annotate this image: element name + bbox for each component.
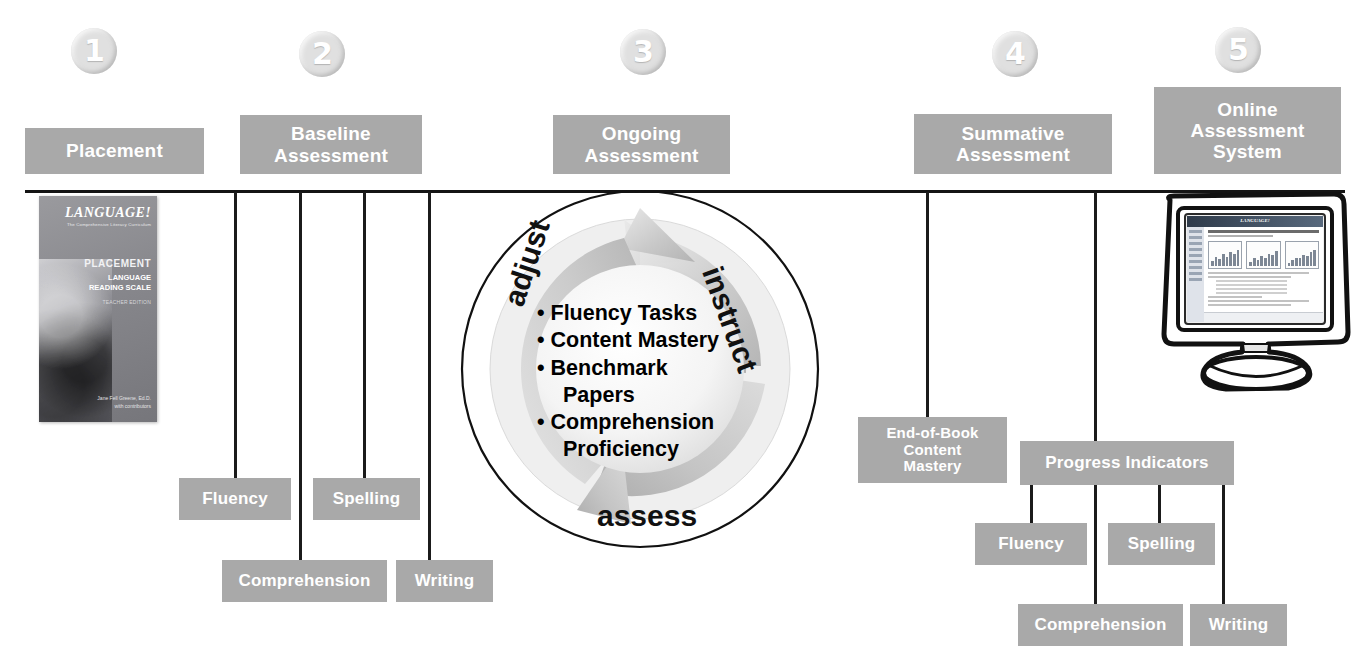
summative-box-end-of-book-content-mastery[interactable]: End-of-Book Content Mastery <box>858 417 1007 483</box>
summative-box-line1: End-of-Book <box>886 425 978 442</box>
cycle-item-3-label: Papers <box>563 383 635 407</box>
screen-page-subtitle <box>1208 235 1273 237</box>
step-number-2: 2 <box>312 39 332 69</box>
progress-child-spelling[interactable]: Spelling <box>1108 523 1215 565</box>
baseline-child-comprehension[interactable]: Comprehension <box>222 560 387 602</box>
online-assessment-monitor: LANGUAGE! <box>1148 192 1364 408</box>
diagram-canvas: 1 2 3 4 5 Placement Baseline Assessment … <box>0 0 1369 672</box>
screen-page-chart <box>1246 241 1280 269</box>
screen-page-text-line <box>1208 276 1291 278</box>
screen-page-bullet <box>1216 284 1287 286</box>
baseline-child-spelling-label: Spelling <box>333 489 401 508</box>
baseline-child-writing[interactable]: Writing <box>396 560 493 602</box>
header-box-ongoing-assessment[interactable]: Ongoing Assessment <box>553 115 730 174</box>
cycle-item-0: • Fluency Tasks <box>537 300 719 327</box>
book-series-line1: LANGUAGE <box>89 273 151 283</box>
cycle-item-2-label: Benchmark <box>551 356 668 380</box>
progress-indicators-box[interactable]: Progress Indicators <box>1020 441 1234 485</box>
connector-progress-comprehension <box>1094 485 1097 604</box>
step-number-5: 5 <box>1228 35 1248 65</box>
sidebar-item <box>1189 242 1202 245</box>
connector-baseline-spelling <box>363 192 366 478</box>
screen-page-bullet <box>1216 288 1287 290</box>
connector-online-progress-indicators <box>1094 192 1097 441</box>
header-box-placement[interactable]: Placement <box>25 128 204 174</box>
step-circle-3: 3 <box>620 29 666 75</box>
book-tagline: The Comprehensive Literacy Curriculum <box>67 222 151 227</box>
cycle-item-5: Proficiency <box>537 436 719 463</box>
header-label-ongoing-line2: Assessment <box>585 145 699 166</box>
screen-page-text-line <box>1208 304 1291 306</box>
header-label-ongoing-line1: Ongoing <box>602 123 682 144</box>
screen-page-text-line <box>1208 296 1262 298</box>
header-label-baseline-line2: Assessment <box>274 145 388 166</box>
header-label-summative-line2: Assessment <box>956 144 1070 165</box>
progress-child-writing[interactable]: Writing <box>1190 604 1287 646</box>
header-label-online-line3: System <box>1213 141 1282 162</box>
connector-baseline-fluency <box>234 192 237 478</box>
progress-child-spelling-label: Spelling <box>1128 534 1196 553</box>
chart-bars <box>1211 249 1239 266</box>
screen-page-title <box>1208 230 1319 233</box>
header-label-baseline-line1: Baseline <box>291 123 371 144</box>
screen-page-bullet <box>1216 292 1287 294</box>
screen-page-footer <box>1204 312 1323 322</box>
connector-baseline-writing <box>428 192 431 560</box>
baseline-child-spelling[interactable]: Spelling <box>313 478 420 520</box>
cycle-item-2: • Benchmark <box>537 355 719 382</box>
summative-box-line2: Content <box>903 442 961 459</box>
screen-page-chart <box>1285 241 1319 269</box>
screen-page-brand: LANGUAGE! <box>1240 218 1269 223</box>
baseline-child-fluency[interactable]: Fluency <box>179 478 291 520</box>
cycle-item-5-label: Proficiency <box>563 437 679 461</box>
progress-child-comprehension-label: Comprehension <box>1034 615 1166 634</box>
sidebar-item <box>1189 236 1202 239</box>
screen-page-bullet <box>1216 280 1287 282</box>
book-kind: PLACEMENT <box>84 258 151 269</box>
sidebar-item <box>1189 260 1202 263</box>
screen-page-chart-row <box>1204 240 1323 270</box>
cycle-item-1-label: Content Mastery <box>551 328 719 352</box>
progress-child-comprehension[interactable]: Comprehension <box>1018 604 1183 646</box>
chart-bars <box>1288 249 1316 266</box>
ongoing-assessment-cycle: adjust instruct assess • Fluency Tasks •… <box>459 188 821 550</box>
baseline-child-writing-label: Writing <box>415 571 475 590</box>
header-box-online-assessment-system[interactable]: Online Assessment System <box>1154 87 1341 174</box>
cycle-item-3: Papers <box>537 382 719 409</box>
book-series-line2: READING SCALE <box>89 283 151 293</box>
sidebar-item <box>1189 248 1202 251</box>
cycle-item-4: • Comprehension <box>537 409 719 436</box>
screen-page-sidebar <box>1187 227 1204 322</box>
step-number-4: 4 <box>1005 39 1025 69</box>
book-edition: TEACHER EDITION <box>102 299 151 305</box>
cycle-item-1: • Content Mastery <box>537 327 719 354</box>
header-box-summative-assessment[interactable]: Summative Assessment <box>914 114 1112 174</box>
header-label-online-line1: Online <box>1217 99 1277 120</box>
connector-summative-endofbook <box>926 192 929 417</box>
step-circle-4: 4 <box>992 31 1038 77</box>
screen-page-body <box>1204 227 1323 313</box>
screen-page-chart <box>1208 241 1242 269</box>
progress-indicators-label: Progress Indicators <box>1045 453 1208 472</box>
progress-child-fluency-label: Fluency <box>998 534 1064 553</box>
cycle-item-0-label: Fluency Tasks <box>551 301 698 325</box>
header-label-summative-line1: Summative <box>961 123 1064 144</box>
connector-progress-spelling <box>1158 485 1161 523</box>
book-series: LANGUAGE READING SCALE <box>89 273 151 293</box>
chart-bars <box>1249 249 1277 266</box>
summative-box-line3: Mastery <box>903 458 961 475</box>
screen-page-text-line <box>1208 300 1309 302</box>
header-label-placement: Placement <box>66 140 163 161</box>
progress-child-writing-label: Writing <box>1209 615 1269 634</box>
cycle-word-assess: assess <box>597 499 697 533</box>
header-box-baseline-assessment[interactable]: Baseline Assessment <box>240 115 422 174</box>
book-author-sub: with contributors <box>97 403 151 411</box>
progress-child-fluency[interactable]: Fluency <box>975 523 1087 565</box>
step-circle-1: 1 <box>71 28 117 74</box>
step-circle-2: 2 <box>299 31 345 77</box>
placement-book-cover: LANGUAGE! The Comprehensive Literacy Cur… <box>39 196 157 422</box>
sidebar-item <box>1189 254 1202 257</box>
screen-page-header: LANGUAGE! <box>1187 216 1323 227</box>
book-author: Jane Fell Greene, Ed.D. with contributor… <box>97 395 151 410</box>
step-number-1: 1 <box>84 36 104 66</box>
